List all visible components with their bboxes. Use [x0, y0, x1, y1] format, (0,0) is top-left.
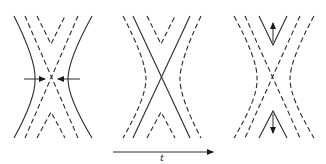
inner-field-line-top [147, 16, 175, 44]
outer-field-line-left [14, 16, 35, 138]
panel-3-outflow [234, 16, 314, 138]
inner-field-line-bottom [147, 112, 175, 138]
reconnection-diagram [0, 0, 326, 164]
outer-field-line-left [123, 16, 146, 138]
outer-field-line-right [290, 16, 314, 138]
outer-field-line-right [68, 16, 92, 138]
time-axis-label: t [160, 153, 164, 163]
inner-field-line-top [37, 16, 65, 44]
panel-1-inflow [14, 16, 92, 138]
outer-field-line-right [180, 16, 201, 138]
inner-field-line-bottom [37, 112, 65, 138]
panel-2-reconnection [123, 16, 201, 138]
